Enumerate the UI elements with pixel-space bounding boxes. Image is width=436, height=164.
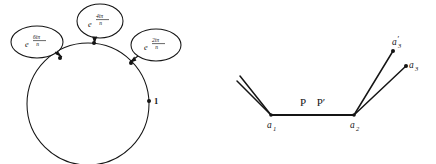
figure-root: 1 e 6iπ n e 4iπ n (0, 0, 436, 164)
label-a2: a 2 (350, 120, 360, 132)
callout-6ipi-n-denominator: n (36, 41, 39, 47)
callout-4ipi-n: e 4iπ n (77, 4, 123, 43)
callout-2ipi-n-base: e (144, 43, 148, 52)
label-P: P (300, 96, 306, 108)
label-a2-subscript: 2 (356, 125, 360, 132)
label-a1: a 1 (267, 120, 276, 132)
callout-2ipi-n-denominator: n (155, 44, 158, 50)
callout-2ipi-n: e 2iπ n (130, 29, 181, 63)
root-point-one (147, 99, 151, 103)
label-a3-base: a (409, 60, 414, 70)
label-a3-prime-base: a (392, 37, 397, 47)
callout-6ipi-n-base: e (25, 40, 29, 49)
label-a3-subscript: 3 (414, 65, 419, 72)
vertex-a3-prime-dot (391, 49, 395, 53)
vertex-a3-dot (404, 64, 408, 68)
callout-2ipi-n-numerator: 2iπ (152, 37, 159, 43)
callout-4ipi-n-base: e (88, 20, 92, 29)
label-one: 1 (154, 96, 158, 106)
incoming-tail-upper (240, 76, 271, 115)
label-a1-base: a (267, 120, 272, 130)
callout-4ipi-n-denominator: n (99, 20, 102, 26)
roots-of-unity-figure: 1 e 6iπ n e 4iπ n (0, 0, 218, 164)
callout-6ipi-n: e 6iπ n (11, 26, 63, 58)
callout-6ipi-n-numerator: 6iπ (33, 34, 40, 40)
path-branch-figure: P P′ a 1 a 2 a ′ 3 a 3 (218, 0, 436, 164)
label-P-prime: P′ (317, 96, 326, 108)
incoming-tail-lower (237, 81, 271, 115)
label-a3-prime: a ′ 3 (392, 35, 402, 49)
label-a2-base: a (350, 120, 355, 130)
label-a1-subscript: 1 (273, 125, 276, 132)
vertex-a1-dot (269, 113, 273, 117)
callout-4ipi-n-numerator: 4iπ (96, 13, 103, 19)
label-a3-prime-subscript: 3 (397, 42, 402, 49)
label-a3: a 3 (409, 60, 419, 72)
